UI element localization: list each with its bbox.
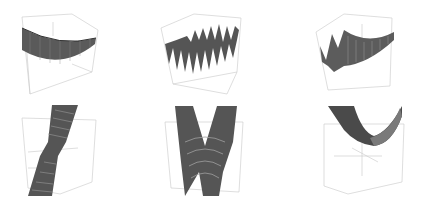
surface-plot-3 [282,0,423,102]
surface-plot-4 [0,102,141,204]
surface-plot-5 [141,102,282,204]
surface-plot-grid [0,0,423,204]
surface-plot-2 [141,0,282,102]
surface-plot-1 [0,0,141,102]
surface-plot-6 [282,102,423,204]
